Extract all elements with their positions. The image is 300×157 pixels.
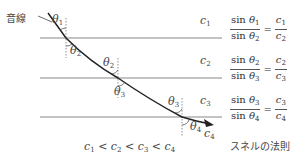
angle-label-theta3: θ3 <box>114 85 125 99</box>
medium-label-c4: c4 <box>204 127 215 141</box>
arrowhead-icon <box>204 119 214 127</box>
snell-law-caption: スネルの法則 <box>230 138 290 153</box>
angle-label-theta4: θ4 <box>190 120 201 134</box>
velocity-inequality: c1 < c2 < c3 < c4 <box>84 140 175 154</box>
medium-label-c3: c3 <box>200 94 211 108</box>
angle-label-theta2: θ2 <box>70 44 81 58</box>
medium-label-c2: c2 <box>200 54 211 68</box>
sound-ray-label: 音線 <box>6 10 26 25</box>
snell-equation-1: sin θ1sin θ2 = c1c2 <box>230 14 287 45</box>
medium-label-c1: c1 <box>200 14 211 28</box>
sound-ray <box>48 13 210 124</box>
snell-equation-2: sin θ2sin θ3 = c2c3 <box>230 54 287 85</box>
angle-label-theta2-upper: θ2 <box>103 56 114 70</box>
snell-equation-3: sin θ3sin θ4 = c3c4 <box>230 94 287 125</box>
angle-label-theta1: θ1 <box>52 13 63 27</box>
angle-label-theta3-upper: θ3 <box>168 95 179 109</box>
